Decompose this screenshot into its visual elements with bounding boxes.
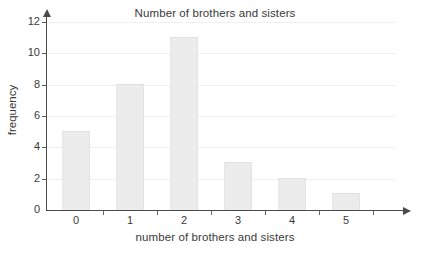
x-tick-label: 3 xyxy=(226,214,250,226)
bar xyxy=(116,84,144,210)
y-tick-label: 0 xyxy=(18,204,40,215)
chart-title: Number of brothers and sisters xyxy=(0,7,430,19)
gridline xyxy=(48,147,396,148)
y-axis-line xyxy=(46,16,47,211)
bar xyxy=(278,178,306,210)
y-tick-label: 6 xyxy=(18,110,40,121)
y-tick-label: 2 xyxy=(18,173,40,184)
y-tick-label: 4 xyxy=(18,141,40,152)
y-axis-arrow-icon xyxy=(43,9,51,17)
x-tick-label: 4 xyxy=(280,214,304,226)
bar-chart: Number of brothers and sisters frequency… xyxy=(0,0,430,254)
gridline xyxy=(48,116,396,117)
x-axis-arrow-icon xyxy=(403,207,411,215)
bar xyxy=(224,162,252,210)
x-tick-label: 5 xyxy=(334,214,358,226)
y-tick-label: 10 xyxy=(18,47,40,58)
bar xyxy=(332,193,360,210)
gridline xyxy=(48,179,396,180)
gridline xyxy=(48,85,396,86)
gridline xyxy=(48,22,396,23)
bar xyxy=(62,131,90,210)
gridline xyxy=(48,53,396,54)
y-tick-label: 12 xyxy=(18,16,40,27)
bar xyxy=(170,37,198,210)
x-axis-title: number of brothers and sisters xyxy=(0,231,430,243)
x-axis-line xyxy=(46,210,404,211)
y-axis-title: frequency xyxy=(6,75,18,145)
x-tick-label: 1 xyxy=(118,214,142,226)
y-tick-label: 8 xyxy=(18,79,40,90)
x-tick-label: 2 xyxy=(172,214,196,226)
plot-area xyxy=(48,22,396,210)
x-tick-label: 0 xyxy=(64,214,88,226)
